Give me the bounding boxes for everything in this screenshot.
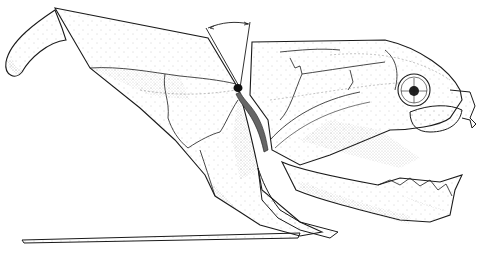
angle-arc (208, 22, 249, 28)
head-shield (250, 40, 462, 168)
median-dorsal-process (6, 10, 66, 76)
orbit (398, 74, 430, 106)
placoderm-drawing (0, 0, 483, 256)
pectoral-spine (22, 233, 300, 243)
lower-jaw (282, 162, 462, 222)
illustration-canvas (0, 0, 483, 256)
